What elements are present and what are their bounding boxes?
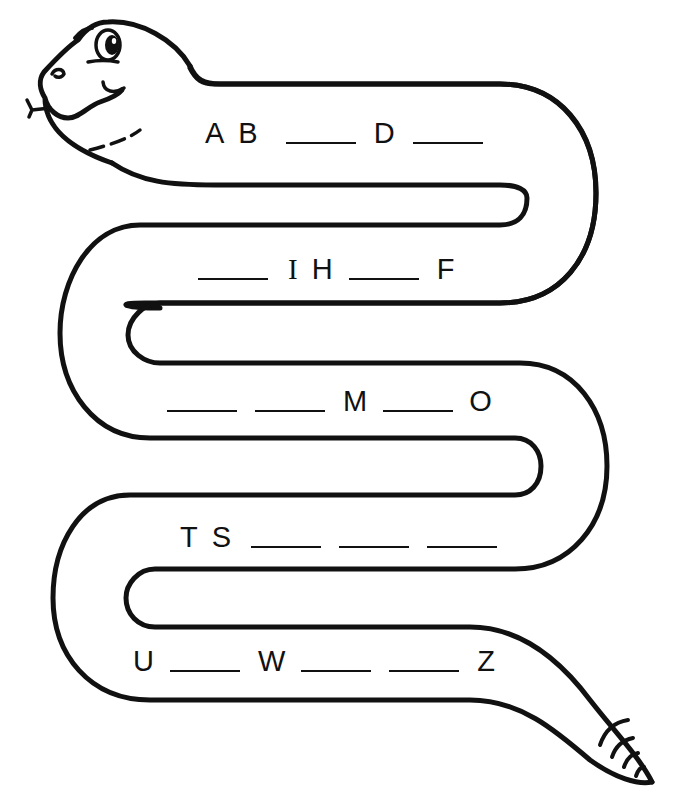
blank-r[interactable] — [251, 546, 321, 548]
blank-y[interactable] — [389, 670, 459, 672]
blank-g[interactable] — [349, 278, 419, 280]
snake-head — [27, 22, 190, 163]
blank-p[interactable] — [427, 546, 497, 548]
worksheet-row-5: U W Z — [133, 640, 509, 676]
worksheet-row-2: I H F — [196, 248, 468, 284]
letter-f: F — [437, 254, 455, 284]
letter-z: Z — [477, 646, 495, 676]
blank-q[interactable] — [339, 546, 409, 548]
worksheet-row-3: M O — [165, 380, 506, 416]
blank-j[interactable] — [198, 278, 268, 280]
letter-w: W — [258, 646, 285, 676]
blank-k[interactable] — [167, 410, 237, 412]
letter-h: H — [312, 254, 333, 284]
blank-n[interactable] — [383, 410, 453, 412]
letter-i: I — [288, 254, 298, 284]
blank-l[interactable] — [255, 410, 325, 412]
letter-b: B — [238, 118, 257, 148]
blank-e[interactable] — [413, 142, 483, 144]
letter-a: A — [205, 118, 224, 148]
blank-x[interactable] — [301, 670, 371, 672]
worksheet-row-4: T S — [180, 516, 513, 552]
letter-s: S — [212, 522, 231, 552]
letter-d: D — [374, 118, 395, 148]
blank-v[interactable] — [170, 670, 240, 672]
letter-o: O — [469, 386, 492, 416]
letter-m: M — [343, 386, 367, 416]
letter-t: T — [180, 522, 198, 552]
worksheet-row-1: A B D — [205, 112, 499, 148]
letter-u: U — [133, 646, 154, 676]
blank-c[interactable] — [286, 142, 356, 144]
tail-rattle — [600, 720, 644, 776]
